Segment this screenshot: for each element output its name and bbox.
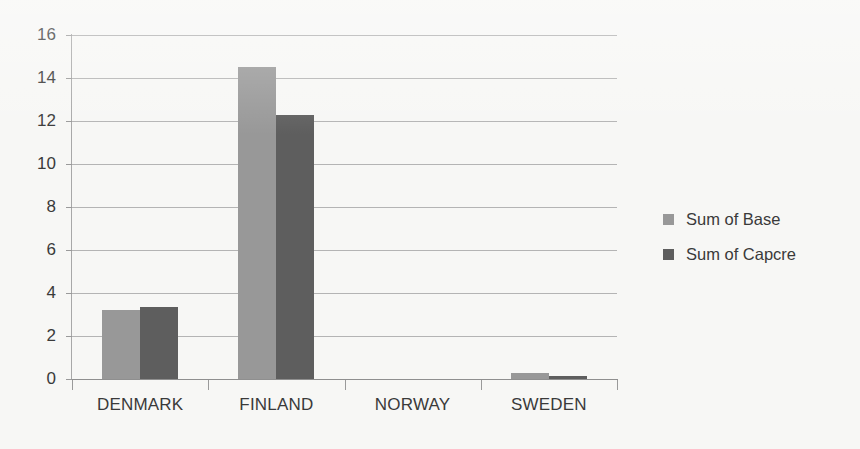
gridline	[72, 293, 617, 294]
y-axis-tick	[66, 78, 72, 79]
legend-item[interactable]: Sum of Base	[663, 202, 796, 237]
y-axis-tick-label: 2	[8, 327, 56, 344]
chart-legend: Sum of BaseSum of Capcre	[663, 202, 796, 272]
x-axis-tick	[208, 380, 209, 390]
y-axis-tick-label: 14	[8, 69, 56, 86]
y-axis-tick	[66, 35, 72, 36]
x-axis-category-label: FINLAND	[208, 396, 344, 415]
y-axis-tick-label: 12	[8, 112, 56, 129]
bar	[238, 67, 276, 379]
y-axis-tick-label: 8	[8, 198, 56, 215]
bar	[140, 307, 178, 379]
y-axis-tick	[66, 164, 72, 165]
y-axis-tick-label: 4	[8, 284, 56, 301]
y-axis-tick	[66, 336, 72, 337]
y-axis-tick-label: 16	[8, 26, 56, 43]
gridline	[72, 35, 617, 36]
legend-swatch-icon	[663, 249, 674, 260]
bar-chart: 0246810121416 DENMARKFINLANDNORWAYSWEDEN…	[0, 0, 860, 449]
y-axis-tick-label: 6	[8, 241, 56, 258]
y-axis-tick-label: 10	[8, 155, 56, 172]
gridline	[72, 207, 617, 208]
legend-item[interactable]: Sum of Capcre	[663, 237, 796, 272]
x-axis-tick	[72, 380, 73, 390]
x-axis-tick	[617, 380, 618, 390]
gridline	[72, 164, 617, 165]
x-axis-category-label: NORWAY	[345, 396, 481, 415]
y-axis-tick-label: 0	[8, 370, 56, 387]
gridline	[72, 121, 617, 122]
x-axis-category-label: SWEDEN	[481, 396, 617, 415]
legend-item-label: Sum of Capcre	[686, 246, 796, 263]
legend-item-label: Sum of Base	[686, 211, 780, 228]
plot-area	[72, 35, 617, 379]
bar	[276, 115, 314, 379]
x-axis-tick	[481, 380, 482, 390]
gridline	[72, 78, 617, 79]
y-axis-tick	[66, 250, 72, 251]
y-axis-tick	[66, 207, 72, 208]
x-axis-category-label: DENMARK	[72, 396, 208, 415]
y-axis-tick	[66, 293, 72, 294]
legend-swatch-icon	[663, 214, 674, 225]
bar	[102, 310, 140, 379]
x-axis-tick	[345, 380, 346, 390]
y-axis-tick	[66, 121, 72, 122]
gridline	[72, 250, 617, 251]
